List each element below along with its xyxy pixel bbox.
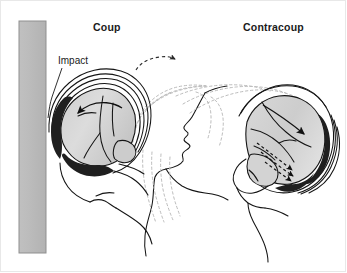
illustration-canvas [0, 0, 347, 273]
label-coup: Coup [93, 22, 121, 33]
contracoup-head [233, 85, 339, 262]
center-head-profile [145, 86, 228, 256]
impact-wall [19, 21, 46, 253]
label-impact: Impact [58, 56, 88, 66]
coup-cerebellum [113, 140, 135, 162]
label-contracoup: Contracoup [243, 22, 304, 33]
coup-head [49, 69, 152, 244]
coup-contracoup-figure: Coup Contracoup Impact [0, 0, 347, 273]
rotation-arrow [136, 57, 175, 70]
